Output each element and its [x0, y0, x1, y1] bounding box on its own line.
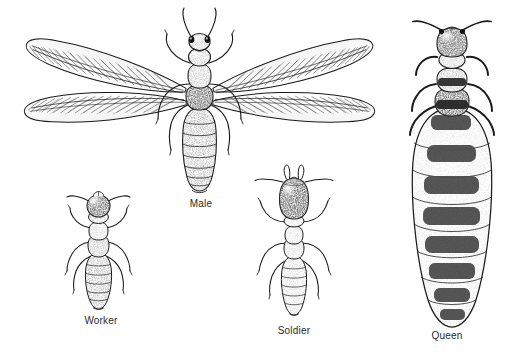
caption-worker-text: Worker	[84, 315, 117, 326]
queen-mesonotum-band	[438, 78, 466, 86]
queen-compound-eye-left	[439, 29, 444, 34]
queen-metanotum-band	[436, 100, 468, 109]
caption-queen-text: Queen	[431, 330, 462, 341]
soldier-mandible-left	[284, 165, 290, 179]
soldier-mandible-right	[298, 165, 304, 179]
caption-male: Male	[0, 199, 514, 209]
caption-queen: Queen	[0, 331, 514, 341]
male-compound-eye-left	[189, 36, 195, 43]
caption-worker: Worker	[0, 316, 514, 326]
male-compound-eye-right	[205, 36, 211, 43]
soldier-thorax	[284, 215, 304, 259]
queen-thorax	[435, 52, 469, 117]
male-thorax	[186, 48, 213, 110]
male-abdomen	[183, 108, 217, 193]
queen-compound-eye-right	[460, 29, 465, 34]
queen-head	[437, 27, 467, 58]
termite-caste-plate	[0, 0, 514, 359]
caption-male-text: Male	[190, 198, 212, 209]
